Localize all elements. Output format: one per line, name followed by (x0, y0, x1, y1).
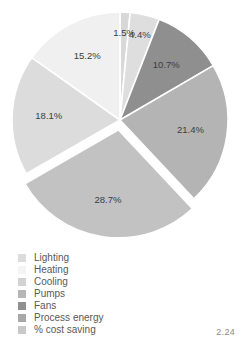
legend-swatch-icon (18, 314, 26, 322)
pie-slice-label: 28.7% (95, 194, 122, 205)
pie-slice-label: 4.4% (129, 29, 151, 40)
pie-chart-plot-area: 1.5%4.4%10.7%21.4%28.7%18.1%15.2% (0, 2, 241, 250)
legend-item[interactable]: Fans (18, 300, 218, 312)
legend-item[interactable]: Process energy (18, 312, 218, 324)
legend-item-label: % cost saving (34, 324, 96, 336)
pie-chart-figure: 1.5%4.4%10.7%21.4%28.7%18.1%15.2% Lighti… (0, 0, 241, 341)
legend-item-label: Pumps (34, 288, 65, 300)
legend-item-label: Process energy (34, 312, 103, 324)
legend-item-label: Fans (34, 300, 56, 312)
chart-legend: LightingHeatingCoolingPumpsFansProcess e… (18, 252, 218, 336)
legend-item[interactable]: Pumps (18, 288, 218, 300)
legend-swatch-icon (18, 266, 26, 274)
legend-item[interactable]: Heating (18, 264, 218, 276)
pie-chart-svg: 1.5%4.4%10.7%21.4%28.7%18.1%15.2% (0, 2, 241, 250)
legend-item[interactable]: % cost saving (18, 324, 218, 336)
legend-swatch-icon (18, 290, 26, 298)
legend-item[interactable]: Cooling (18, 276, 218, 288)
pie-slice-label: 18.1% (35, 110, 62, 121)
legend-item[interactable]: Lighting (18, 252, 218, 264)
legend-swatch-icon (18, 278, 26, 286)
pie-slice-label: 10.7% (153, 59, 180, 70)
legend-swatch-icon (18, 254, 26, 262)
pie-slice-label: 15.2% (74, 50, 101, 61)
pie-slice-label: 21.4% (177, 124, 204, 135)
legend-swatch-icon (18, 326, 26, 334)
figure-caption: 2.24 (216, 327, 235, 337)
legend-swatch-icon (18, 302, 26, 310)
legend-item-label: Lighting (34, 252, 69, 264)
legend-item-label: Heating (34, 264, 68, 276)
legend-item-label: Cooling (34, 276, 68, 288)
